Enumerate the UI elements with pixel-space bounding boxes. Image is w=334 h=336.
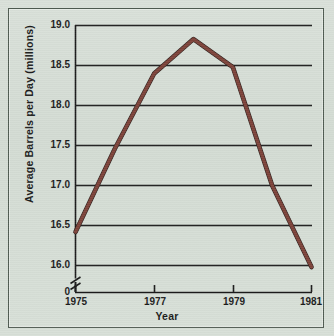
x-axis-title: Year bbox=[0, 310, 334, 322]
ytick-label-16-5: 16.5 bbox=[36, 219, 70, 230]
data-line bbox=[76, 39, 312, 267]
gridlines bbox=[75, 26, 312, 266]
ytick-label-17-5: 17.5 bbox=[36, 139, 70, 150]
x-axis-ticks bbox=[76, 285, 312, 292]
xtick-label-1975: 1975 bbox=[54, 296, 98, 307]
y-axis-title: Average Barrels per Day (millions) bbox=[23, 19, 35, 209]
ytick-label-17-0: 17.0 bbox=[36, 179, 70, 190]
xtick-label-1981: 1981 bbox=[289, 296, 333, 307]
xtick-label-1977: 1977 bbox=[133, 296, 177, 307]
xtick-label-1979: 1979 bbox=[212, 296, 256, 307]
ytick-label-18-5: 18.5 bbox=[36, 59, 70, 70]
ytick-label-18-0: 18.0 bbox=[36, 99, 70, 110]
ytick-label-19-0: 19.0 bbox=[36, 19, 70, 30]
ytick-label-16-0: 16.0 bbox=[36, 259, 70, 270]
chart-figure: 19.0 18.5 18.0 17.5 17.0 16.5 16.0 0 197… bbox=[0, 0, 334, 336]
